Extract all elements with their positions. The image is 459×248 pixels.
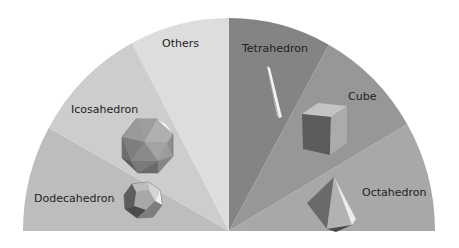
dodecahedron-icon <box>124 182 162 218</box>
label-octahedron: Octahedron <box>362 186 426 199</box>
cube-icon <box>302 103 347 155</box>
label-tetrahedron: Tetrahedron <box>241 42 308 55</box>
label-icosahedron: Icosahedron <box>71 103 138 116</box>
label-cube: Cube <box>348 90 377 103</box>
half-pie-chart: Dodecahedron Icosahedron Others Tetrahed… <box>0 0 459 248</box>
label-others: Others <box>162 37 199 50</box>
label-dodecahedron: Dodecahedron <box>34 192 114 205</box>
icosahedron-icon <box>122 119 173 173</box>
